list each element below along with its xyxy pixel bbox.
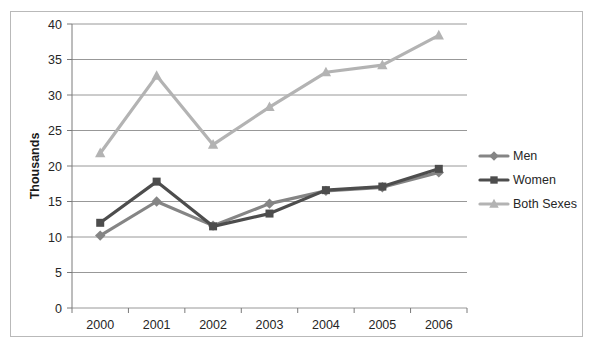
y-tick-label: 40 — [48, 18, 62, 32]
legend-label: Men — [513, 149, 537, 163]
x-tick-label: 2005 — [368, 318, 396, 332]
y-tick-label: 10 — [48, 231, 62, 245]
legend-label: Both Sexes — [513, 197, 577, 211]
data-point-marker — [153, 178, 161, 186]
chart-legend: MenWomenBoth Sexes — [480, 149, 577, 211]
series-line — [100, 35, 439, 153]
x-tick-label: 2004 — [312, 318, 340, 332]
y-tick-label: 30 — [48, 89, 62, 103]
data-point-marker — [96, 219, 104, 227]
data-point-marker — [435, 165, 443, 173]
gridlines — [72, 24, 467, 308]
x-tick-label: 2006 — [425, 318, 453, 332]
legend-item-women[interactable]: Women — [480, 173, 556, 187]
legend-item-both-sexes[interactable]: Both Sexes — [480, 197, 577, 211]
y-tick-label: 5 — [55, 266, 62, 280]
y-axis-tick-labels: 0510152025303540 — [48, 18, 62, 316]
legend-item-men[interactable]: Men — [480, 149, 537, 163]
x-tick-label: 2003 — [256, 318, 284, 332]
legend-label: Women — [513, 173, 556, 187]
series-both-sexes — [95, 30, 444, 157]
legend-marker — [489, 151, 499, 161]
line-chart: 0510152025303540 20002001200220032004200… — [0, 0, 598, 350]
data-point-marker — [266, 210, 274, 218]
data-point-marker — [209, 222, 217, 230]
data-series — [95, 30, 444, 241]
y-tick-label: 25 — [48, 124, 62, 138]
series-men — [95, 167, 444, 241]
data-point-marker — [264, 198, 274, 208]
x-tick-label: 2002 — [199, 318, 227, 332]
data-point-marker — [151, 70, 161, 80]
x-tick-label: 2000 — [86, 318, 114, 332]
data-point-marker — [434, 30, 444, 40]
y-axis-title: Thousands — [28, 133, 42, 200]
y-tick-label: 20 — [48, 160, 62, 174]
data-point-marker — [378, 183, 386, 191]
series-line — [100, 169, 439, 227]
y-tick-label: 0 — [55, 302, 62, 316]
y-tick-label: 35 — [48, 53, 62, 67]
series-women — [96, 165, 443, 231]
x-axis-tick-labels: 2000200120022003200420052006 — [86, 318, 452, 332]
x-tick-label: 2001 — [143, 318, 171, 332]
legend-marker — [490, 176, 497, 183]
axes — [67, 24, 467, 313]
y-tick-label: 15 — [48, 195, 62, 209]
data-point-marker — [322, 186, 330, 194]
